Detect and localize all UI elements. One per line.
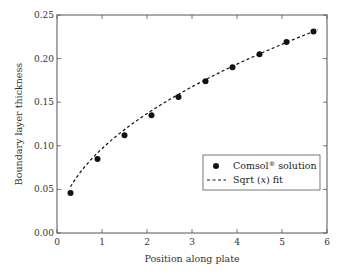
y-tick-label: 0.15 (34, 97, 54, 107)
data-point (230, 64, 236, 70)
y-tick-label: 0.00 (34, 228, 54, 238)
y-tick-label: 0.05 (34, 184, 54, 194)
x-tick-label: 2 (144, 237, 150, 247)
data-point (203, 78, 209, 84)
data-point (122, 132, 128, 138)
x-tick-label: 3 (189, 237, 195, 247)
data-point (95, 156, 101, 162)
y-tick-label: 0.25 (34, 10, 54, 20)
y-tick-label: 0.20 (34, 54, 54, 64)
ticks: 01234560.000.050.100.150.200.25 (34, 10, 330, 247)
y-tick-label: 0.10 (34, 141, 54, 151)
x-tick-label: 4 (234, 237, 240, 247)
plot-frame (57, 15, 327, 233)
legend-marker-comsol (213, 163, 219, 169)
legend-label-comsol: Comsol® solution (233, 160, 317, 172)
y-axis-label: Boundary layer thickness (13, 63, 24, 186)
x-tick-label: 0 (54, 237, 60, 247)
x-axis-label: Position along plate (144, 253, 240, 264)
data-point (68, 190, 74, 196)
legend: Comsol® solutionSqrt (x) fit (203, 155, 320, 190)
data-point (284, 39, 290, 45)
axes (57, 15, 327, 233)
data-point (149, 112, 155, 118)
x-tick-label: 1 (99, 237, 105, 247)
data-point (176, 94, 182, 100)
data-point (311, 29, 317, 35)
x-tick-label: 5 (279, 237, 285, 247)
x-tick-label: 6 (324, 237, 330, 247)
data-point (257, 51, 263, 57)
boundary-layer-chart: 01234560.000.050.100.150.200.25 Position… (0, 0, 347, 273)
legend-label-fit: Sqrt (x) fit (233, 174, 283, 185)
